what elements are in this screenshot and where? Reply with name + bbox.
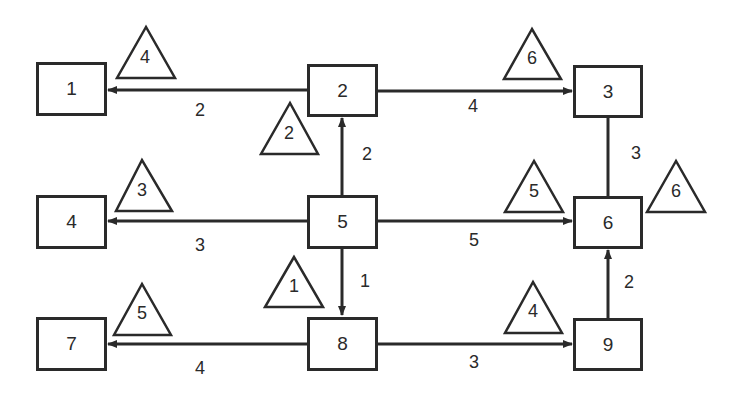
triangle-label: 5	[529, 182, 539, 200]
network-diagram: 1 2 3 4 5 6 7 8 9 2 4 2 3 3 5 1 4 3 2 4 …	[0, 0, 735, 396]
edge-weight-5-4: 3	[195, 236, 205, 254]
triangle-label: 3	[137, 181, 147, 199]
edge-weight-8-9: 3	[469, 353, 479, 371]
node-label: 4	[66, 211, 77, 233]
node-9: 9	[573, 318, 643, 371]
node-label: 5	[337, 211, 348, 233]
edge-weight-9-6: 2	[624, 273, 634, 291]
edge-weight-5-6: 5	[469, 231, 479, 249]
node-4: 4	[36, 195, 107, 249]
node-7: 7	[36, 317, 107, 371]
edge-weight-5-8: 1	[360, 272, 370, 290]
node-label: 7	[66, 333, 77, 355]
node-label: 8	[337, 333, 348, 355]
triangle-label: 5	[137, 304, 147, 322]
triangle-label: 1	[289, 277, 299, 295]
node-1: 1	[36, 62, 107, 116]
node-label: 6	[603, 212, 614, 234]
edge-weight-5-2: 2	[362, 145, 372, 163]
node-3: 3	[573, 65, 643, 118]
triangle-label: 6	[527, 49, 537, 67]
node-label: 3	[603, 81, 614, 103]
triangle-label: 6	[671, 182, 681, 200]
node-label: 2	[337, 80, 348, 102]
triangle-label: 2	[284, 124, 294, 142]
edge-weight-3-6: 3	[631, 144, 641, 162]
node-8: 8	[307, 317, 378, 371]
edge-weight-2-1: 2	[195, 101, 205, 119]
node-label: 9	[603, 334, 614, 356]
node-5: 5	[307, 195, 378, 249]
node-6: 6	[573, 196, 643, 249]
node-2: 2	[307, 64, 378, 117]
edge-weight-8-7: 4	[195, 359, 205, 377]
node-label: 1	[66, 78, 77, 100]
triangle-label: 4	[528, 302, 538, 320]
edge-weight-2-3: 4	[468, 97, 478, 115]
triangle-label: 4	[140, 48, 150, 66]
